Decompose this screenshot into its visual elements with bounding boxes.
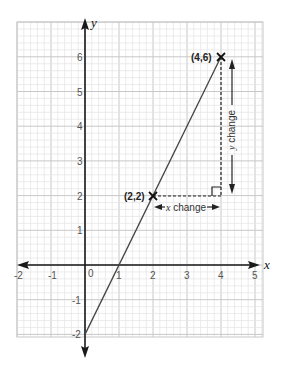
x-tick-label: 4 — [218, 270, 224, 281]
y-tick-label: 1 — [77, 225, 83, 236]
grid — [17, 22, 263, 337]
y-axis-label: y — [89, 15, 97, 30]
point-label-4-6: (4,6) — [191, 52, 212, 63]
x-tick-label: 3 — [184, 270, 190, 281]
y-tick-label: 3 — [77, 156, 83, 167]
axes — [17, 18, 260, 358]
x-tick-label: -2 — [14, 270, 23, 281]
svg-text:y change: y change — [226, 110, 237, 151]
x-tick-label: -1 — [48, 270, 57, 281]
y-tick-label: 5 — [77, 87, 83, 98]
x-change-text: change — [170, 202, 206, 213]
point-label-2-2: (2,2) — [124, 191, 145, 202]
x-axis-label: x — [263, 257, 270, 272]
svg-text:x change: x change — [165, 202, 206, 213]
x-change-annotation: x change — [154, 202, 220, 213]
coordinate-graph: -2-112345 -2-1123456 x y 0 (2,2) (4,6) x… — [0, 0, 283, 368]
x-tick-label: 5 — [252, 270, 258, 281]
x-tick-label: 2 — [150, 270, 156, 281]
y-tick-label: 4 — [77, 121, 83, 132]
y-change-text: change — [226, 110, 237, 146]
y-tick-label: -1 — [72, 295, 81, 306]
y-tick-label: 6 — [77, 52, 83, 63]
y-tick-label: -2 — [72, 329, 81, 340]
origin-label: 0 — [88, 268, 94, 279]
grid-border — [17, 22, 263, 337]
x-change-right-arrow-icon — [212, 204, 220, 210]
y-tick-label: 2 — [77, 191, 83, 202]
x-tick-label: 1 — [116, 270, 122, 281]
